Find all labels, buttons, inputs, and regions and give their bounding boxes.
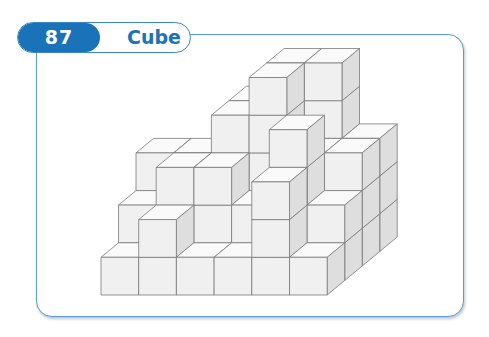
cube-stack-figure [0,0,489,337]
